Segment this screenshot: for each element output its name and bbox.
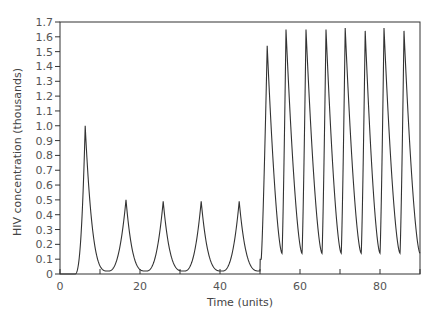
y-tick-label: 0.8	[36, 149, 54, 162]
y-tick-label: 1.4	[36, 60, 54, 73]
y-tick-label: 0.2	[36, 238, 54, 251]
x-tick-label: 40	[213, 280, 227, 293]
x-tick-label: 80	[373, 280, 387, 293]
y-tick-label: 0.1	[36, 253, 54, 266]
x-axis-ticks: 020406080	[57, 269, 421, 293]
x-tick-label: 0	[57, 280, 64, 293]
y-tick-label: 0.5	[36, 194, 54, 207]
x-axis-title: Time (units)	[206, 296, 273, 309]
y-tick-label: 0	[46, 268, 53, 281]
y-tick-label: 1.1	[36, 105, 54, 118]
y-tick-label: 1.2	[36, 90, 54, 103]
y-tick-label: 1.0	[36, 120, 54, 133]
y-tick-label: 0.6	[36, 179, 54, 192]
y-axis-title: HIV concentration (thousands)	[11, 68, 24, 236]
hiv-concentration-line	[60, 28, 420, 274]
y-tick-label: 0.4	[36, 209, 54, 222]
y-tick-label: 0.3	[36, 224, 54, 237]
x-tick-label: 60	[293, 280, 307, 293]
hiv-concentration-chart: 00.10.20.30.40.50.60.70.80.91.01.11.21.3…	[0, 0, 436, 320]
y-axis-ticks: 00.10.20.30.40.50.60.70.80.91.01.11.21.3…	[36, 16, 61, 281]
y-tick-label: 1.5	[36, 46, 54, 59]
y-tick-label: 1.6	[36, 31, 54, 44]
y-tick-label: 1.7	[36, 16, 54, 29]
y-tick-label: 1.3	[36, 75, 54, 88]
x-tick-label: 20	[133, 280, 147, 293]
y-tick-label: 0.9	[36, 135, 54, 148]
y-tick-label: 0.7	[36, 164, 54, 177]
